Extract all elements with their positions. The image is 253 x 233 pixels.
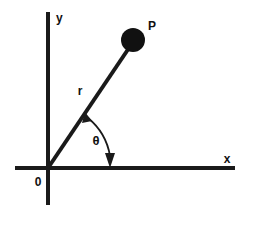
diagram-canvas: x y 0 r θ P (0, 0, 253, 233)
radius-vector-line (48, 42, 133, 168)
polar-coordinate-diagram: x y 0 r θ P (0, 0, 253, 233)
origin-label: 0 (35, 175, 42, 189)
point-p-marker (121, 28, 145, 52)
radius-label: r (78, 84, 83, 98)
angle-arc-arrowhead-lower (105, 153, 115, 168)
x-axis-label: x (224, 152, 231, 166)
y-axis-label: y (56, 11, 63, 25)
point-p-label: P (148, 19, 156, 33)
angle-label: θ (92, 133, 99, 148)
